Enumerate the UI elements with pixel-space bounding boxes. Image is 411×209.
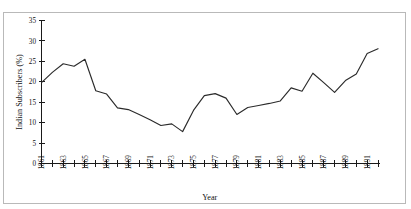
x-tick-label: 1873 — [168, 155, 176, 170]
y-axis-title: Indian Subscribers (%) — [15, 54, 24, 130]
data-series-line — [42, 49, 379, 132]
x-tick-label: 1869 — [125, 155, 133, 170]
x-axis-title: Year — [202, 193, 217, 202]
x-tick-label: 1887 — [320, 155, 328, 170]
y-tick-label: 25 — [29, 58, 37, 66]
x-axis — [42, 160, 381, 167]
x-tick-label: 1875 — [190, 155, 198, 170]
x-tick-label: 1877 — [212, 155, 220, 170]
y-tick-label: 30 — [29, 38, 37, 46]
x-tick-label: 1883 — [277, 155, 285, 170]
y-tick-label: 20 — [29, 78, 37, 86]
y-tick-label: 5 — [32, 140, 36, 148]
y-tick-label: 15 — [29, 99, 37, 107]
figure-container: 05101520253035 1861186318651867186918711… — [0, 0, 411, 209]
x-tick-label: 1871 — [147, 155, 155, 170]
line-chart: 05101520253035 1861186318651867186918711… — [0, 0, 411, 209]
x-tick-label: 1891 — [364, 155, 372, 170]
x-tick-label: 1881 — [255, 155, 263, 170]
x-tick-label: 1863 — [60, 155, 68, 170]
x-tick-label: 1867 — [103, 155, 111, 170]
x-tick-label: 1889 — [342, 155, 350, 170]
x-tick-label: 1861 — [38, 155, 46, 170]
x-tick-label: 1885 — [299, 155, 307, 170]
y-tick-label: 0 — [32, 160, 36, 168]
x-tick-label: 1865 — [82, 155, 90, 170]
x-tick-label: 1879 — [233, 155, 241, 170]
y-tick-labels: 05101520253035 — [29, 17, 37, 168]
y-tick-label: 10 — [29, 119, 37, 127]
y-tick-label: 35 — [29, 17, 37, 25]
x-tick-labels: 1861186318651867186918711873187518771879… — [38, 155, 372, 170]
y-axis — [39, 21, 45, 164]
